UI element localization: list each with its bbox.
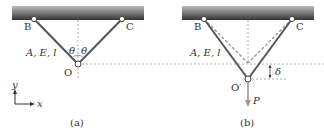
label-bar-properties: A, E, l — [25, 47, 56, 58]
pin-B — [31, 16, 36, 21]
x-axis-arrowhead — [30, 102, 35, 106]
pin-O-prime — [245, 76, 251, 82]
caption-a: (a) — [70, 117, 84, 128]
pin-C — [289, 16, 294, 21]
label-theta-left: θ — [69, 45, 75, 56]
label-y-axis: y — [11, 79, 18, 90]
delta-arrowhead-up — [269, 65, 272, 69]
label-O: O — [64, 67, 72, 78]
original-bar-OC — [248, 19, 292, 63]
label-load-P: P — [252, 95, 260, 106]
label-C: C — [126, 21, 134, 32]
panel-b: B C O′ A, E, l δ P (b) — [182, 6, 314, 128]
label-C: C — [296, 21, 304, 32]
pin-C — [119, 16, 124, 21]
label-B: B — [194, 21, 201, 32]
label-theta-right: θ — [81, 45, 87, 56]
pin-B — [201, 16, 206, 21]
label-delta: δ — [275, 66, 281, 77]
label-O-prime: O′ — [231, 82, 242, 93]
bar-OC — [78, 19, 122, 64]
caption-b: (b) — [240, 117, 254, 128]
label-bar-properties: A, E, l — [189, 47, 220, 58]
delta-arrowhead-down — [269, 75, 272, 79]
pin-O — [75, 61, 81, 67]
load-arrowhead — [245, 100, 251, 107]
truss-diagram: B C O A, E, l θ θ y x (a) — [0, 0, 324, 138]
label-x-axis: x — [37, 98, 43, 109]
label-B: B — [24, 21, 31, 32]
